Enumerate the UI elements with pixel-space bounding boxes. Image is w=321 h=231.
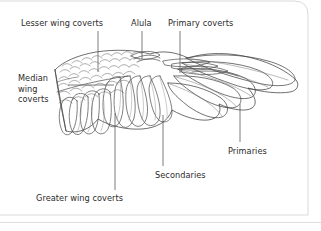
wing-anatomy-figure-panel: Lesser wing coverts Alula Primary covert… [0, 0, 321, 231]
label-alula: Alula [131, 18, 152, 29]
secondary-feathers [103, 76, 172, 127]
label-greater-wing-coverts: Greater wing coverts [36, 193, 123, 204]
label-secondaries: Secondaries [155, 170, 206, 181]
panel-border [0, 1, 308, 215]
label-lesser-wing-coverts: Lesser wing coverts [21, 18, 103, 29]
label-primaries: Primaries [228, 146, 267, 157]
label-primary-coverts: Primary coverts [168, 18, 233, 29]
wing-drawing [55, 50, 298, 135]
label-median-wing-coverts: Median wing coverts [18, 73, 49, 105]
